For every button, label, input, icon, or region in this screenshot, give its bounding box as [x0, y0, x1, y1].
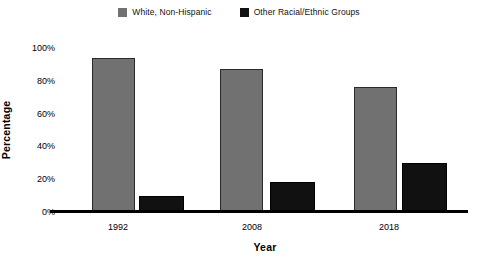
bar-chart: White, Non-Hispanic Other Racial/Ethnic … — [0, 0, 478, 266]
y-axis-tick-100: 100% — [32, 44, 55, 53]
x-axis-title: Year — [62, 241, 468, 253]
y-axis-title: Percentage — [0, 101, 12, 160]
bar-2008-other-racial-ethnic-groups — [270, 182, 315, 212]
legend-label-other-racial-ethnic-groups: Other Racial/Ethnic Groups — [254, 8, 360, 17]
x-axis-line — [50, 210, 468, 213]
x-axis-tick-2008: 2008 — [242, 222, 262, 232]
legend-swatch-white-non-hispanic — [118, 8, 127, 17]
x-axis-tick-2018: 2018 — [379, 222, 399, 232]
y-axis-tick-20: 20% — [37, 175, 55, 184]
legend-item-white-non-hispanic: White, Non-Hispanic — [118, 8, 211, 17]
legend-label-white-non-hispanic: White, Non-Hispanic — [132, 8, 211, 17]
plot-area: 100% 80% 60% 40% 20% 0% 1992 2008 2018 — [62, 48, 468, 212]
x-axis-tick-1992: 1992 — [108, 222, 128, 232]
legend-swatch-other-racial-ethnic-groups — [240, 8, 249, 17]
y-axis-tick-80: 80% — [37, 76, 55, 85]
bar-2018-other-racial-ethnic-groups — [402, 163, 447, 212]
bar-2008-white-non-hispanic — [220, 69, 263, 212]
bar-2018-white-non-hispanic — [354, 87, 397, 212]
y-axis-tick-40: 40% — [37, 142, 55, 151]
bar-1992-white-non-hispanic — [92, 58, 135, 212]
legend-item-other-racial-ethnic-groups: Other Racial/Ethnic Groups — [240, 8, 360, 17]
y-axis-tick-60: 60% — [37, 109, 55, 118]
chart-legend: White, Non-Hispanic Other Racial/Ethnic … — [0, 8, 478, 17]
